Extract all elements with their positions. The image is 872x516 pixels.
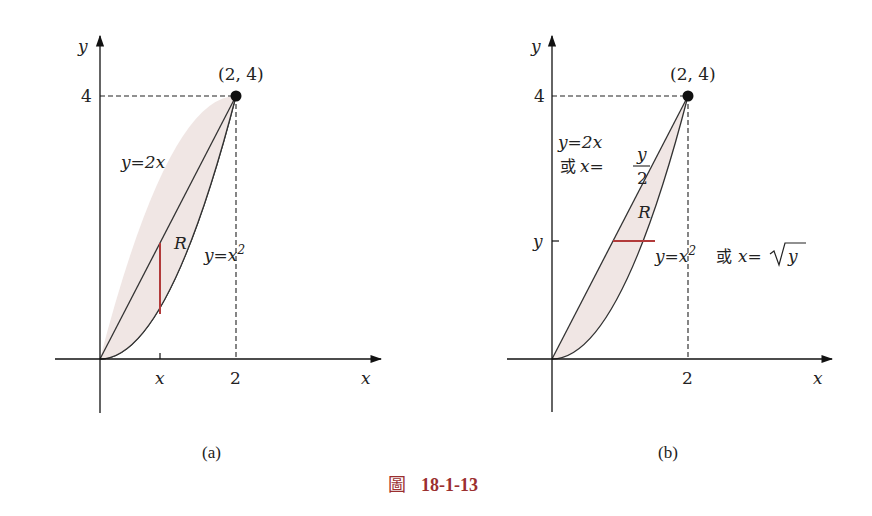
y-axis-label: y [77,36,88,56]
curve-label-sqrt-arg: y [787,246,798,266]
y-axis-label: y [530,36,541,56]
line-label-2: x= [580,156,604,176]
figure-number: 18-1-13 [421,475,478,495]
point-2-4 [683,91,694,102]
point-label: (2, 4) [218,64,264,84]
panel-a-caption: (a) [202,443,221,462]
y-tick-4: 4 [534,86,545,106]
line-label: y=2x [120,152,166,172]
panel-b-caption: (b) [658,443,678,462]
line-label-or: 或 [560,157,576,176]
x-axis-label: x [361,368,371,388]
y-tick-label-var: y [532,231,543,251]
figure-canvas: y 4 (2, 4) y=2x R y=x2 x 2 x (a) y 4 (2,… [0,0,872,516]
x-axis-label: x [813,368,823,388]
region-label: R [637,202,651,222]
curve-label-or: 或 [716,247,732,266]
point-label: (2, 4) [670,64,716,84]
x-tick-label-2: 2 [682,368,693,388]
panel-b: y 4 (2, 4) y=2x 或 x= y 2 R y y=x2 或 x= y… [507,36,832,462]
line-label-1: y=2x [557,132,603,152]
curve-label: y=x2 [654,244,696,266]
line-y-2x [100,96,236,359]
point-2-4 [231,91,242,102]
y-tick-4: 4 [81,86,92,106]
curve-label: y=x2 [203,243,245,265]
region-label: R [173,233,187,253]
figure-char: 圖 [388,474,406,495]
x-tick-label-var: x [155,368,165,388]
curve-label-x: x= [738,246,762,266]
panel-a: y 4 (2, 4) y=2x R y=x2 x 2 x (a) [55,36,381,462]
line-frac-den: 2 [637,168,648,188]
x-tick-label-2: 2 [230,368,241,388]
figure-caption: 圖 18-1-13 [388,474,478,495]
line-frac-num: y [636,144,647,164]
